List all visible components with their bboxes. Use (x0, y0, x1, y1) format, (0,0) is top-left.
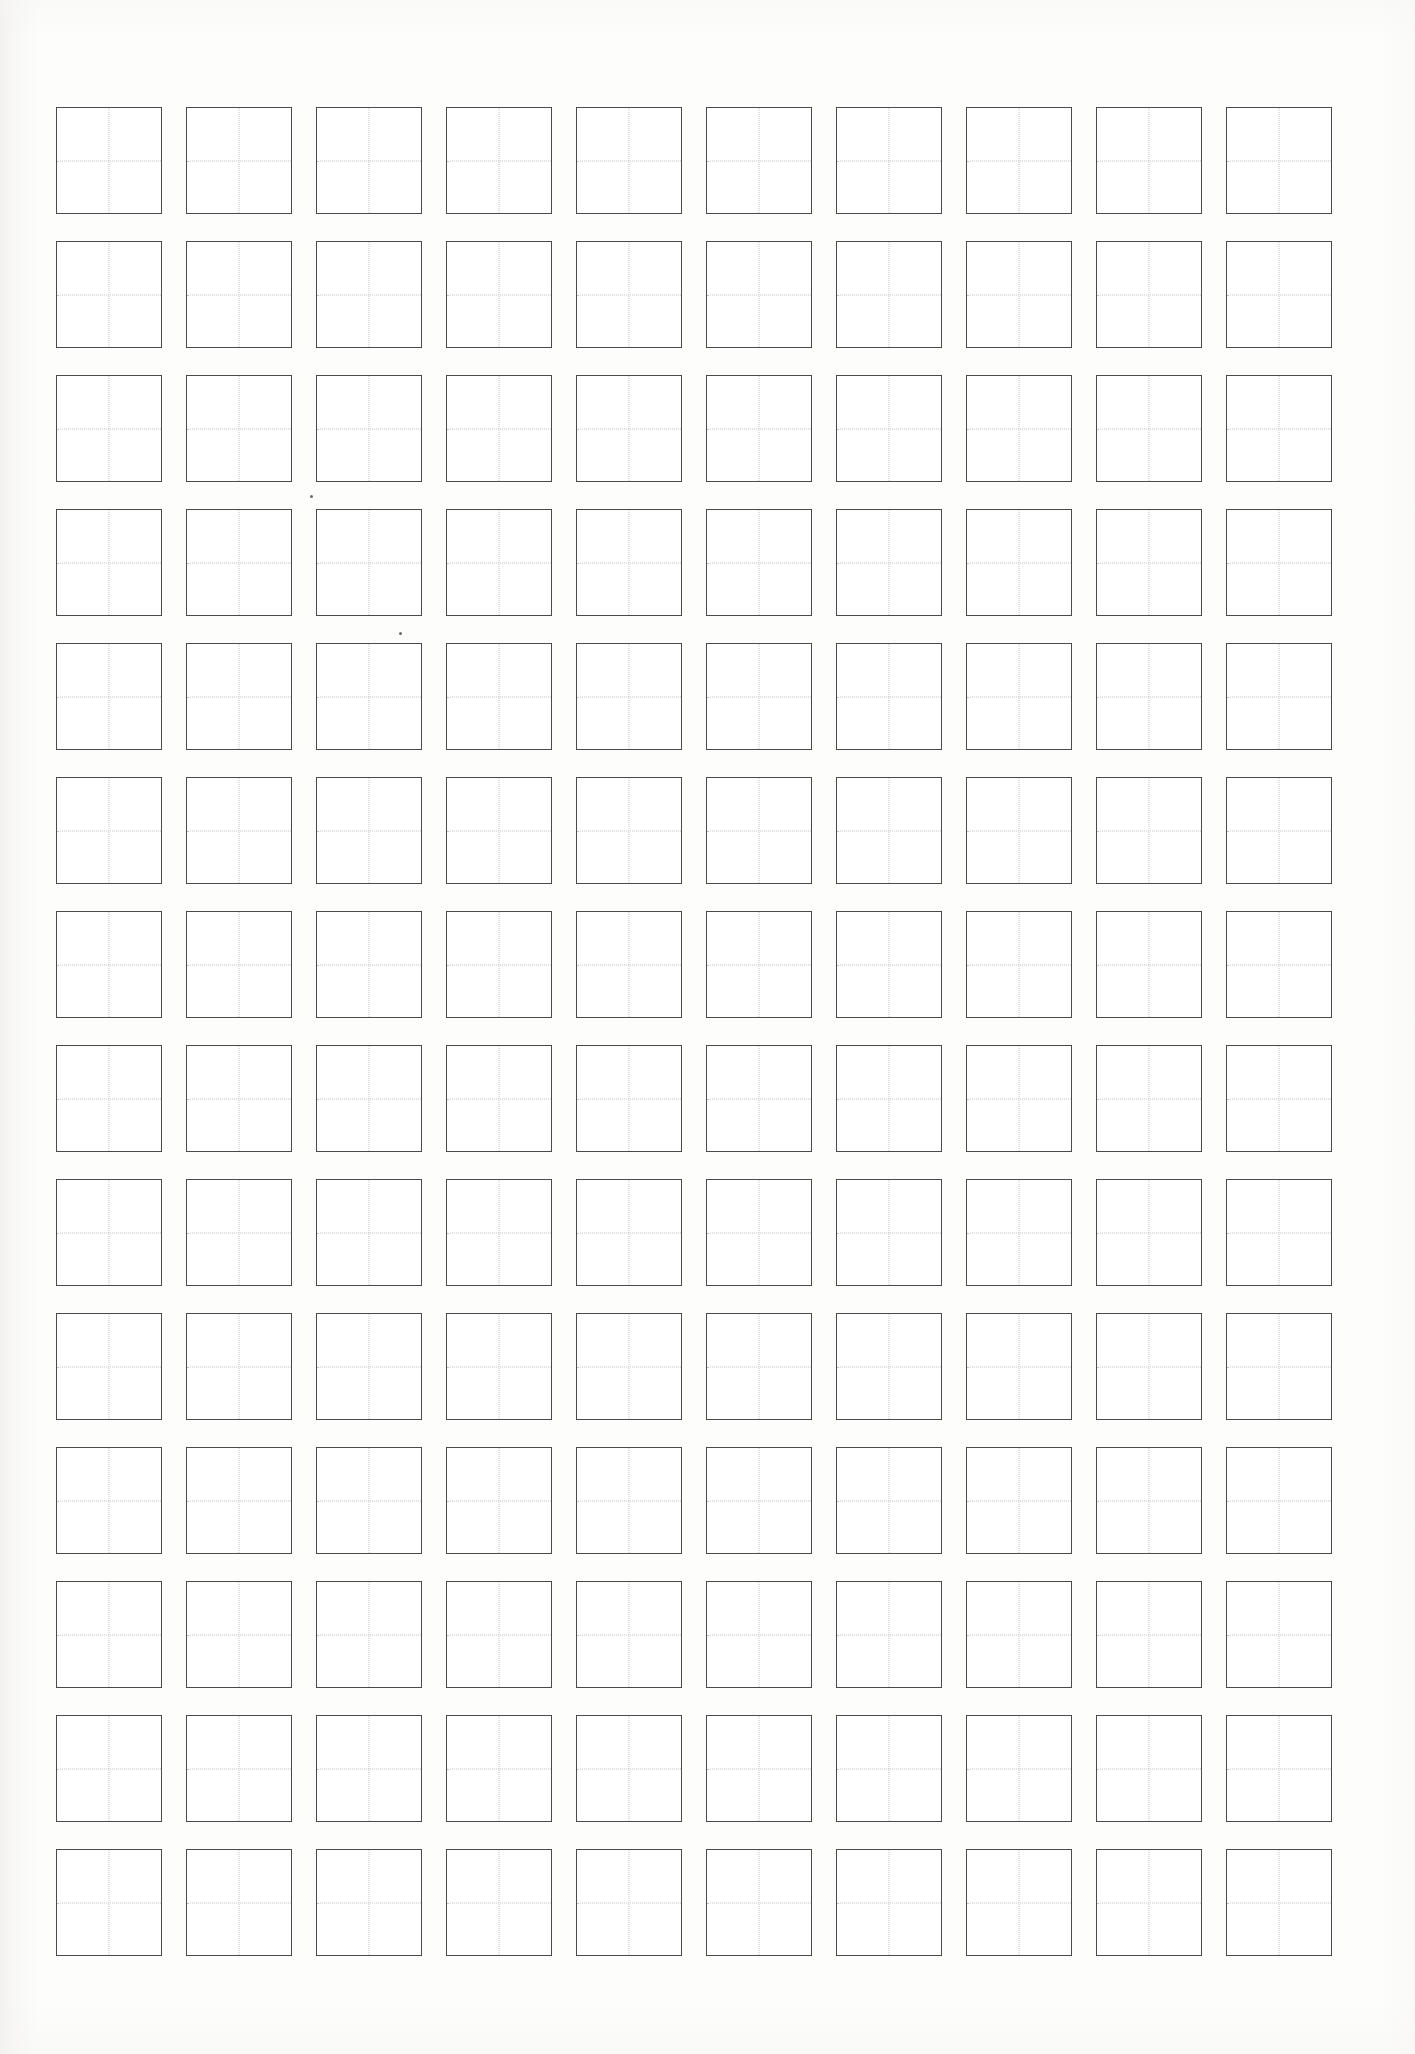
tianzige-cell[interactable] (316, 911, 422, 1018)
tianzige-cell[interactable] (56, 1313, 162, 1420)
tianzige-cell[interactable] (706, 509, 812, 616)
tianzige-cell[interactable] (576, 1045, 682, 1152)
tianzige-cell[interactable] (1226, 1849, 1332, 1956)
tianzige-cell[interactable] (1226, 107, 1332, 214)
tianzige-cell[interactable] (446, 1447, 552, 1554)
tianzige-cell[interactable] (56, 1581, 162, 1688)
tianzige-cell[interactable] (1096, 1715, 1202, 1822)
tianzige-cell[interactable] (1096, 1849, 1202, 1956)
tianzige-cell[interactable] (316, 107, 422, 214)
tianzige-cell[interactable] (576, 1179, 682, 1286)
tianzige-cell[interactable] (1096, 1179, 1202, 1286)
tianzige-cell[interactable] (966, 777, 1072, 884)
tianzige-cell[interactable] (1226, 375, 1332, 482)
tianzige-cell[interactable] (706, 1447, 812, 1554)
tianzige-cell[interactable] (1096, 1581, 1202, 1688)
tianzige-cell[interactable] (576, 509, 682, 616)
tianzige-cell[interactable] (56, 1179, 162, 1286)
tianzige-cell[interactable] (576, 1447, 682, 1554)
tianzige-cell[interactable] (706, 1313, 812, 1420)
tianzige-cell[interactable] (316, 1045, 422, 1152)
tianzige-cell[interactable] (966, 1313, 1072, 1420)
tianzige-cell[interactable] (316, 241, 422, 348)
tianzige-cell[interactable] (836, 375, 942, 482)
tianzige-cell[interactable] (1226, 241, 1332, 348)
tianzige-cell[interactable] (836, 1045, 942, 1152)
tianzige-cell[interactable] (576, 375, 682, 482)
tianzige-cell[interactable] (836, 643, 942, 750)
tianzige-cell[interactable] (966, 1179, 1072, 1286)
tianzige-cell[interactable] (316, 1849, 422, 1956)
tianzige-cell[interactable] (186, 1179, 292, 1286)
tianzige-cell[interactable] (836, 1849, 942, 1956)
tianzige-cell[interactable] (1226, 1715, 1332, 1822)
tianzige-cell[interactable] (1096, 1313, 1202, 1420)
tianzige-cell[interactable] (966, 1849, 1072, 1956)
tianzige-cell[interactable] (966, 1045, 1072, 1152)
tianzige-cell[interactable] (1096, 375, 1202, 482)
tianzige-cell[interactable] (966, 509, 1072, 616)
tianzige-cell[interactable] (56, 777, 162, 884)
tianzige-cell[interactable] (836, 777, 942, 884)
tianzige-cell[interactable] (1226, 1581, 1332, 1688)
tianzige-cell[interactable] (576, 1849, 682, 1956)
tianzige-cell[interactable] (1096, 643, 1202, 750)
tianzige-cell[interactable] (576, 911, 682, 1018)
tianzige-cell[interactable] (706, 107, 812, 214)
tianzige-cell[interactable] (836, 509, 942, 616)
tianzige-cell[interactable] (576, 643, 682, 750)
tianzige-cell[interactable] (316, 1313, 422, 1420)
tianzige-cell[interactable] (836, 1581, 942, 1688)
tianzige-cell[interactable] (56, 375, 162, 482)
tianzige-cell[interactable] (966, 1447, 1072, 1554)
tianzige-cell[interactable] (446, 911, 552, 1018)
tianzige-cell[interactable] (186, 375, 292, 482)
tianzige-cell[interactable] (316, 643, 422, 750)
tianzige-cell[interactable] (706, 1179, 812, 1286)
tianzige-cell[interactable] (446, 1045, 552, 1152)
tianzige-cell[interactable] (836, 1179, 942, 1286)
tianzige-cell[interactable] (446, 1849, 552, 1956)
tianzige-cell[interactable] (446, 107, 552, 214)
tianzige-cell[interactable] (1226, 911, 1332, 1018)
tianzige-cell[interactable] (186, 1447, 292, 1554)
tianzige-cell[interactable] (316, 509, 422, 616)
tianzige-cell[interactable] (1226, 1447, 1332, 1554)
tianzige-cell[interactable] (446, 1179, 552, 1286)
tianzige-cell[interactable] (1226, 1045, 1332, 1152)
tianzige-cell[interactable] (1096, 911, 1202, 1018)
tianzige-cell[interactable] (836, 1313, 942, 1420)
tianzige-cell[interactable] (706, 241, 812, 348)
tianzige-cell[interactable] (1226, 777, 1332, 884)
tianzige-cell[interactable] (706, 1581, 812, 1688)
tianzige-cell[interactable] (966, 107, 1072, 214)
tianzige-cell[interactable] (316, 375, 422, 482)
tianzige-cell[interactable] (576, 1313, 682, 1420)
tianzige-cell[interactable] (316, 1179, 422, 1286)
tianzige-cell[interactable] (1096, 1045, 1202, 1152)
tianzige-cell[interactable] (56, 1045, 162, 1152)
tianzige-cell[interactable] (836, 241, 942, 348)
tianzige-cell[interactable] (56, 107, 162, 214)
tianzige-cell[interactable] (186, 1849, 292, 1956)
tianzige-cell[interactable] (1096, 509, 1202, 616)
tianzige-cell[interactable] (966, 1715, 1072, 1822)
tianzige-cell[interactable] (446, 643, 552, 750)
tianzige-cell[interactable] (56, 1715, 162, 1822)
tianzige-cell[interactable] (446, 1715, 552, 1822)
tianzige-cell[interactable] (186, 1313, 292, 1420)
tianzige-cell[interactable] (186, 1581, 292, 1688)
tianzige-cell[interactable] (706, 643, 812, 750)
tianzige-cell[interactable] (446, 509, 552, 616)
tianzige-cell[interactable] (1096, 107, 1202, 214)
tianzige-cell[interactable] (186, 777, 292, 884)
tianzige-cell[interactable] (836, 107, 942, 214)
tianzige-cell[interactable] (186, 911, 292, 1018)
tianzige-cell[interactable] (576, 1715, 682, 1822)
tianzige-cell[interactable] (1226, 1179, 1332, 1286)
tianzige-cell[interactable] (966, 911, 1072, 1018)
tianzige-cell[interactable] (836, 911, 942, 1018)
tianzige-cell[interactable] (186, 1715, 292, 1822)
tianzige-cell[interactable] (316, 1581, 422, 1688)
tianzige-cell[interactable] (1226, 1313, 1332, 1420)
